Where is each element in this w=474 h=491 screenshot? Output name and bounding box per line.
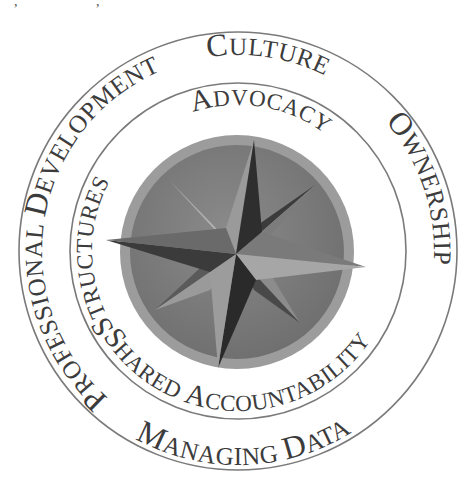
label-managing-data: MANAGING DATA bbox=[132, 413, 355, 470]
label-ownership: OWNERSHIP bbox=[380, 103, 456, 265]
cropped-text-fragment: , bbox=[96, 0, 100, 10]
compass-medallion bbox=[106, 135, 366, 369]
cropped-text-fragment: , bbox=[14, 0, 18, 10]
label-advocacy: ADVOCACY bbox=[187, 81, 337, 138]
ring-diagram: CULTURE OWNERSHIP PROFESSIONAL DEVELOPME… bbox=[0, 0, 474, 491]
figure-canvas: , , bbox=[0, 0, 474, 491]
